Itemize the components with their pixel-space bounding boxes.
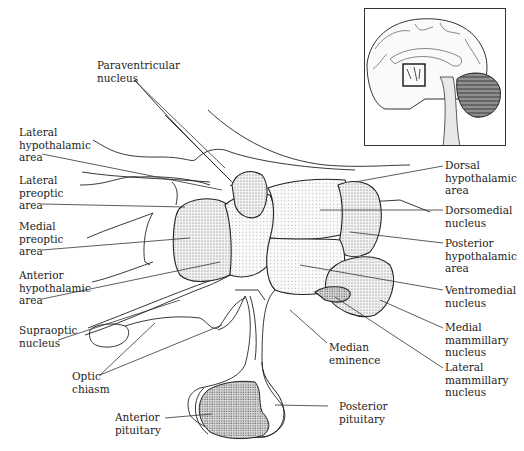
label-medial-mammillary-nucleus: Medial mammillary nucleus xyxy=(445,321,508,359)
label-lateral-mammillary-nucleus: Lateral mammillary nucleus xyxy=(445,361,508,399)
label-supraoptic-nucleus: Supraoptic nucleus xyxy=(19,324,77,349)
label-ventromedial-nucleus: Ventromedial nucleus xyxy=(445,284,516,309)
label-optic-chiasm: Optic chiasm xyxy=(72,370,110,395)
brain-inset-icon xyxy=(365,9,506,146)
posterior-hypothalamic-mass xyxy=(338,182,381,257)
label-posterior-pituitary: Posterior pituitary xyxy=(339,400,388,425)
label-anterior-hypothalamic-area: Anterior hypothalamic area xyxy=(19,269,91,307)
label-medial-preoptic-area: Medial preoptic area xyxy=(19,220,63,258)
brain-inset xyxy=(364,8,506,146)
label-anterior-pituitary: Anterior pituitary xyxy=(115,411,161,436)
label-posterior-hypothalamic-area: Posterior hypothalamic area xyxy=(445,237,517,275)
anterior-pituitary-shape xyxy=(199,381,269,438)
label-lateral-hypothalamic-area: Lateral hypothalamic area xyxy=(19,126,91,164)
paraventricular-knob xyxy=(232,172,267,218)
dorsomedial-mass xyxy=(268,179,348,239)
label-paraventricular-nucleus: Paraventricular nucleus xyxy=(97,59,180,84)
label-lateral-preoptic-area: Lateral preoptic area xyxy=(19,174,63,212)
label-dorsomedial-nucleus: Dorsomedial nucleus xyxy=(445,204,512,229)
label-dorsal-hypothalamic-area: Dorsal hypothalamic area xyxy=(445,159,517,197)
label-median-eminence: Median eminence xyxy=(329,341,380,366)
preoptic-mass xyxy=(173,199,233,282)
